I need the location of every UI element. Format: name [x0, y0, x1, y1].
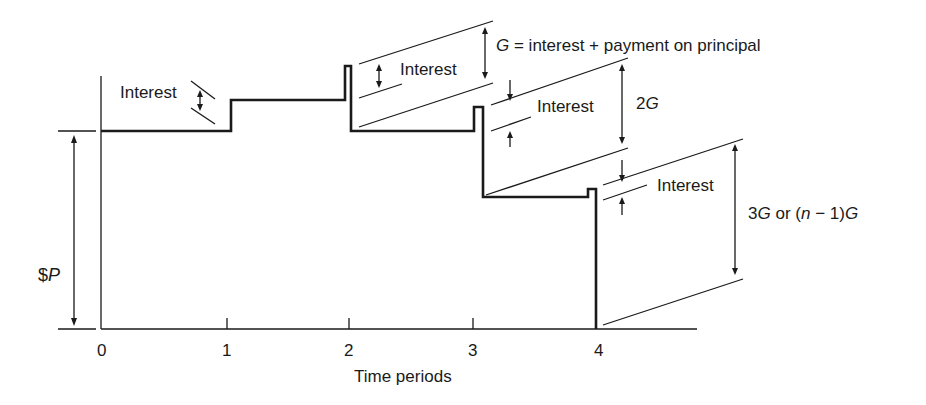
diagram-canvas — [0, 0, 926, 405]
x-tick-3: 3 — [468, 342, 477, 359]
g-definition-label: G = interest + payment on principal — [496, 37, 761, 54]
interest-label-4: Interest — [657, 177, 714, 194]
x-tick-1: 1 — [222, 342, 231, 359]
two-g-label: 2G — [636, 95, 659, 112]
x-tick-2: 2 — [344, 342, 353, 359]
x-axis-title: Time periods — [354, 368, 452, 385]
loan-balance-path — [101, 66, 596, 329]
interest-label-1: Interest — [120, 84, 177, 101]
interest-label-2: Interest — [400, 61, 457, 78]
interest-label-3: Interest — [537, 98, 594, 115]
three-g-label: 3G or (n − 1)G — [748, 205, 858, 222]
principal-label: $P — [38, 266, 60, 284]
x-tick-4: 4 — [594, 342, 603, 359]
x-tick-0: 0 — [97, 342, 106, 359]
